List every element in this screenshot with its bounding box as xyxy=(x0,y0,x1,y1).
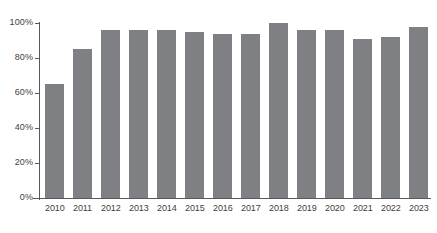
bar xyxy=(129,30,148,198)
x-axis-tick-label: 2011 xyxy=(73,202,92,218)
bar xyxy=(45,84,64,198)
bar-column xyxy=(45,23,64,198)
bar xyxy=(353,39,372,198)
y-axis-tick-label: 60% xyxy=(0,88,33,97)
bar xyxy=(241,34,260,199)
bar xyxy=(269,23,288,198)
bar xyxy=(185,32,204,198)
y-axis-tick-label: 40% xyxy=(0,123,33,132)
x-axis-tick-label: 2013 xyxy=(129,202,148,218)
x-axis-tick-label: 2016 xyxy=(213,202,232,218)
bar-column xyxy=(325,23,344,198)
y-axis-tick-label: 100% xyxy=(0,18,33,27)
bar-column xyxy=(381,23,400,198)
bar-column xyxy=(269,23,288,198)
x-axis-tick-label: 2019 xyxy=(297,202,316,218)
x-axis-tick-label: 2022 xyxy=(381,202,400,218)
bar xyxy=(213,34,232,199)
x-axis-tick-label: 2014 xyxy=(157,202,176,218)
bar xyxy=(101,30,120,198)
bar-column xyxy=(353,23,372,198)
x-axis-tick-label: 2012 xyxy=(101,202,120,218)
plot-area xyxy=(40,23,430,198)
x-axis-line xyxy=(33,198,431,199)
bar-series xyxy=(40,23,430,198)
bar xyxy=(73,49,92,198)
bar xyxy=(157,30,176,198)
bar-column xyxy=(409,23,428,198)
x-axis-tick-label: 2023 xyxy=(409,202,428,218)
bar-column xyxy=(213,23,232,198)
x-axis-tick-label: 2010 xyxy=(45,202,64,218)
x-axis-tick-label: 2018 xyxy=(269,202,288,218)
bar xyxy=(409,27,428,199)
x-axis-tick-label: 2020 xyxy=(325,202,344,218)
x-axis-tick-label: 2021 xyxy=(353,202,372,218)
bar-column xyxy=(241,23,260,198)
bar-column xyxy=(185,23,204,198)
bar xyxy=(297,30,316,198)
x-axis-labels: 2010201120122013201420152016201720182019… xyxy=(40,202,430,218)
bar-column xyxy=(73,23,92,198)
y-axis-tick-label: 80% xyxy=(0,53,33,62)
bar-column xyxy=(157,23,176,198)
bar-chart: 0%20%40%60%80%100% 201020112012201320142… xyxy=(0,0,437,233)
bar xyxy=(381,37,400,198)
bar-column xyxy=(297,23,316,198)
y-axis-tick-label: 20% xyxy=(0,158,33,167)
y-axis-tick-label: 0% xyxy=(0,193,33,202)
x-axis-tick-label: 2017 xyxy=(241,202,260,218)
bar-column xyxy=(129,23,148,198)
x-axis-tick-label: 2015 xyxy=(185,202,204,218)
bar xyxy=(325,30,344,198)
bar-column xyxy=(101,23,120,198)
